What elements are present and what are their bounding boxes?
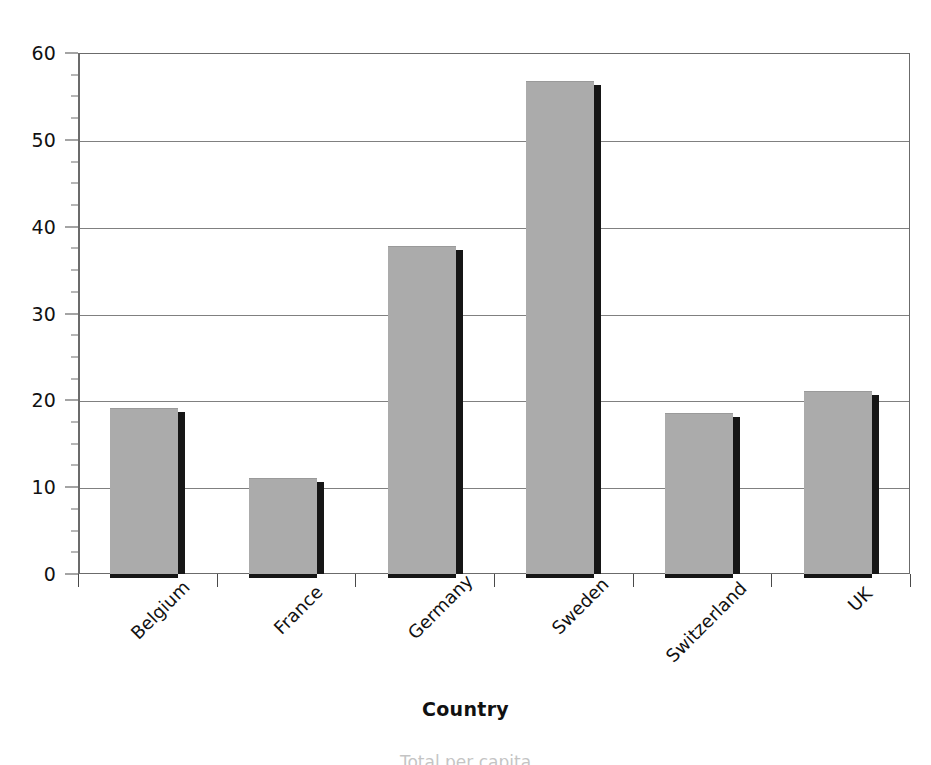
bar-shadow bbox=[872, 395, 879, 574]
y-tick-minor bbox=[71, 248, 78, 249]
y-tick-minor bbox=[71, 465, 78, 466]
bar[interactable] bbox=[110, 408, 178, 574]
bar-slot bbox=[665, 53, 733, 574]
bar[interactable] bbox=[804, 391, 872, 574]
y-tick-major bbox=[65, 574, 78, 575]
y-tick-major bbox=[65, 400, 78, 401]
y-tick-minor bbox=[71, 443, 78, 444]
y-tick-minor bbox=[71, 161, 78, 162]
clipped-caption: Total per capita bbox=[0, 752, 931, 765]
bar-shadow bbox=[594, 85, 601, 574]
y-tick-major bbox=[65, 53, 78, 54]
y-tick-major bbox=[65, 313, 78, 314]
y-tick-minor bbox=[71, 74, 78, 75]
bar-shadow bbox=[317, 482, 324, 574]
y-tick-minor bbox=[71, 118, 78, 119]
y-axis: 0102030405060 bbox=[0, 0, 78, 600]
y-tick-minor bbox=[71, 204, 78, 205]
y-tick-minor bbox=[71, 508, 78, 509]
y-tick-minor bbox=[71, 291, 78, 292]
bar-slot bbox=[388, 53, 456, 574]
y-tick-minor bbox=[71, 422, 78, 423]
y-tick-label: 50 bbox=[31, 130, 56, 149]
y-tick-minor bbox=[71, 183, 78, 184]
x-tick-label: Switzerland bbox=[663, 579, 750, 666]
bar-slot bbox=[110, 53, 178, 574]
y-tick-label: 0 bbox=[44, 565, 56, 584]
y-tick-minor bbox=[71, 270, 78, 271]
y-tick-minor bbox=[71, 552, 78, 553]
bars-layer bbox=[78, 53, 910, 574]
bar-slot bbox=[249, 53, 317, 574]
x-tick-label: France bbox=[271, 582, 326, 637]
y-tick-minor bbox=[71, 335, 78, 336]
bar[interactable] bbox=[388, 246, 456, 574]
y-tick-major bbox=[65, 139, 78, 140]
bar-shadow bbox=[456, 250, 463, 574]
x-axis-labels: BelgiumFranceGermanySwedenSwitzerlandUK bbox=[78, 586, 910, 672]
y-tick-minor bbox=[71, 96, 78, 97]
bar[interactable] bbox=[526, 81, 594, 574]
y-tick-minor bbox=[71, 378, 78, 379]
bar-shadow bbox=[733, 417, 740, 575]
bar-shadow bbox=[178, 412, 185, 574]
y-tick-label: 10 bbox=[31, 478, 56, 497]
y-tick-label: 40 bbox=[31, 217, 56, 236]
bar[interactable] bbox=[249, 478, 317, 574]
x-axis-title: Country bbox=[0, 698, 931, 720]
y-tick-minor bbox=[71, 356, 78, 357]
y-tick-label: 20 bbox=[31, 391, 56, 410]
x-tick bbox=[910, 574, 911, 587]
bar-slot bbox=[526, 53, 594, 574]
y-tick-minor bbox=[71, 530, 78, 531]
y-tick-major bbox=[65, 487, 78, 488]
y-tick-label: 60 bbox=[31, 44, 56, 63]
bar-chart: 0102030405060 BelgiumFranceGermanySweden… bbox=[0, 0, 931, 765]
y-tick-major bbox=[65, 226, 78, 227]
x-tick-label: Belgium bbox=[128, 578, 193, 643]
x-tick-label: UK bbox=[845, 584, 875, 614]
y-tick-label: 30 bbox=[31, 304, 56, 323]
bar[interactable] bbox=[665, 413, 733, 575]
bar-slot bbox=[804, 53, 872, 574]
